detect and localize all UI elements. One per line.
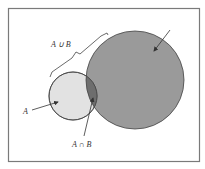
set-a-label: A <box>22 107 28 116</box>
intersection-label: A ∩ B <box>71 140 92 149</box>
set-b-circle <box>86 31 184 129</box>
union-label: A ∪ B <box>50 40 71 49</box>
venn-diagram: A ∪ B A A ∩ B <box>0 0 205 169</box>
